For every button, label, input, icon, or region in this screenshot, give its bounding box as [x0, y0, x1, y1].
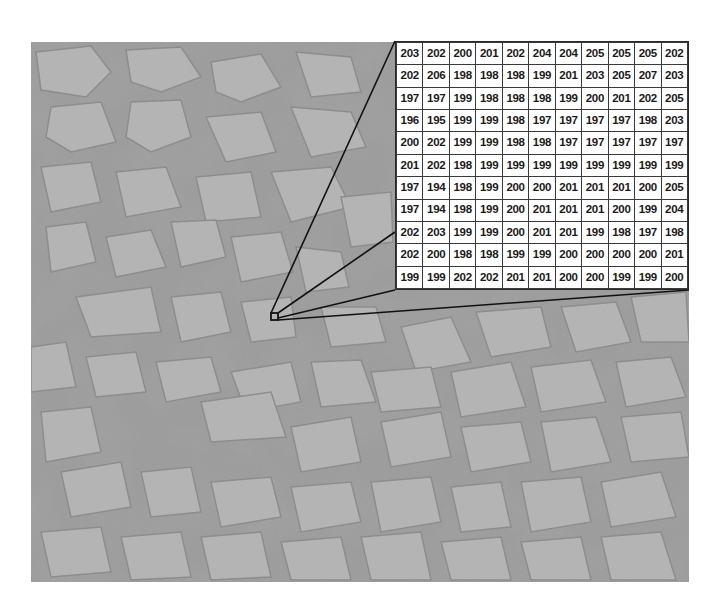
pixel-value-cell: 199: [529, 244, 555, 266]
pixel-value-cell: 198: [449, 244, 475, 266]
pixel-value-cell: 200: [608, 244, 634, 266]
pixel-value-cell: 201: [397, 154, 423, 176]
pixel-value-cell: 205: [608, 65, 634, 87]
pixel-value-cell: 200: [582, 87, 608, 109]
pixel-value-cell: 197: [635, 221, 661, 243]
pixel-value-cell: 199: [476, 199, 502, 221]
pixel-value-cell: 199: [555, 154, 581, 176]
pixel-value-cell: 207: [635, 65, 661, 87]
pixel-value-cell: 201: [529, 221, 555, 243]
pixel-value-cell: 202: [423, 132, 449, 154]
pixel-value-cell: 199: [502, 154, 528, 176]
pixel-value-cell: 197: [582, 110, 608, 132]
pixel-value-cell: 202: [423, 154, 449, 176]
pixel-value-cell: 198: [502, 65, 528, 87]
pixel-value-cell: 201: [608, 87, 634, 109]
pixel-value-cell: 198: [502, 132, 528, 154]
grid-row: 199199202202201201200200199199200: [397, 266, 688, 288]
pixel-value-cell: 201: [555, 65, 581, 87]
pixel-value-cell: 201: [476, 43, 502, 65]
pixel-value-cell: 199: [529, 154, 555, 176]
pixel-value-cell: 199: [476, 177, 502, 199]
grid-row: 196195199199198197197197197198203: [397, 110, 688, 132]
pixel-value-cell: 202: [661, 43, 687, 65]
pixel-value-cell: 201: [608, 177, 634, 199]
pixel-value-cell: 198: [661, 221, 687, 243]
pixel-value-cell: 204: [555, 43, 581, 65]
pixel-value-cell: 197: [635, 132, 661, 154]
pixel-value-cell: 205: [661, 177, 687, 199]
pixel-value-cell: 202: [423, 43, 449, 65]
pixel-value-cell: 197: [423, 87, 449, 109]
pixel-value-cell: 197: [555, 110, 581, 132]
pixel-value-cell: 199: [502, 244, 528, 266]
pixel-value-cell: 200: [661, 266, 687, 288]
pixel-value-cell: 199: [608, 266, 634, 288]
pixel-value-cell: 197: [397, 177, 423, 199]
pixel-value-cell: 199: [635, 266, 661, 288]
pixel-value-cell: 201: [529, 266, 555, 288]
pixel-value-cell: 201: [555, 221, 581, 243]
pixel-value-cell: 197: [555, 132, 581, 154]
pixel-value-cell: 202: [397, 221, 423, 243]
pixel-value-cell: 202: [397, 65, 423, 87]
pixel-value-cell: 197: [661, 132, 687, 154]
pixel-value-cell: 205: [661, 87, 687, 109]
pixel-value-cell: 206: [423, 65, 449, 87]
grid-row: 202206198198198199201203205207203: [397, 65, 688, 87]
pixel-value-cell: 199: [449, 132, 475, 154]
pixel-value-cell: 199: [635, 154, 661, 176]
pixel-value-cell: 201: [582, 177, 608, 199]
pixel-value-cell: 199: [582, 154, 608, 176]
pixel-value-cell: 199: [423, 266, 449, 288]
pixel-value-cell: 199: [608, 154, 634, 176]
pixel-value-cell: 199: [449, 110, 475, 132]
pixel-value-cell: 205: [582, 43, 608, 65]
pixel-value-cell: 199: [582, 221, 608, 243]
pixel-value-cell: 202: [397, 244, 423, 266]
pixel-value-cell: 201: [661, 244, 687, 266]
pixel-value-cell: 202: [449, 266, 475, 288]
pixel-value-cell: 200: [555, 266, 581, 288]
pixel-value-cell: 200: [502, 199, 528, 221]
pixel-value-cell: 198: [529, 87, 555, 109]
pixel-value-cell: 199: [397, 266, 423, 288]
pixel-value-cell: 200: [582, 244, 608, 266]
pixel-value-cell: 202: [502, 43, 528, 65]
pixel-value-cell: 197: [608, 132, 634, 154]
grid-row: 202200198198199199200200200200201: [397, 244, 688, 266]
pixel-value-cell: 200: [502, 221, 528, 243]
pixel-value-cell: 199: [555, 87, 581, 109]
pixel-value-cell: 202: [476, 266, 502, 288]
pixel-value-cell: 199: [449, 221, 475, 243]
pixel-value-cell: 199: [476, 132, 502, 154]
pixel-value-cell: 198: [449, 65, 475, 87]
pixel-value-cell: 194: [423, 199, 449, 221]
pixel-value-cell: 198: [608, 221, 634, 243]
grid-row: 200202199199198198197197197197197: [397, 132, 688, 154]
pixel-value-cell: 202: [635, 87, 661, 109]
pixel-value-cell: 200: [502, 177, 528, 199]
pixel-value-cell: 198: [502, 87, 528, 109]
pixel-value-cell: 200: [635, 244, 661, 266]
pixel-value-cell: 203: [661, 65, 687, 87]
pixel-value-cell: 200: [397, 132, 423, 154]
grid-row: 197197199198198198199200201202205: [397, 87, 688, 109]
pixel-value-cell: 203: [397, 43, 423, 65]
grid-row: 203202200201202204204205205205202: [397, 43, 688, 65]
pixel-value-cell: 197: [397, 87, 423, 109]
pixel-value-cell: 200: [529, 177, 555, 199]
pixel-value-cell: 200: [555, 244, 581, 266]
grid-row: 202203199199200201201199198197198: [397, 221, 688, 243]
pixel-value-cell: 204: [661, 199, 687, 221]
pixel-value-grid: 2032022002012022042042052052052022022061…: [395, 41, 689, 290]
pixel-value-cell: 200: [449, 43, 475, 65]
pixel-value-table: 2032022002012022042042052052052022022061…: [396, 42, 688, 289]
pixel-value-cell: 199: [449, 87, 475, 109]
pixel-value-cell: 198: [449, 154, 475, 176]
pixel-value-cell: 203: [423, 221, 449, 243]
pixel-value-cell: 199: [529, 65, 555, 87]
pixel-value-cell: 198: [635, 110, 661, 132]
pixel-value-cell: 200: [608, 199, 634, 221]
pixel-value-cell: 194: [423, 177, 449, 199]
